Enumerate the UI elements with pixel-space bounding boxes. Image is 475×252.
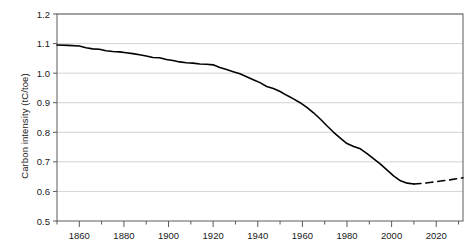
y-axis-tick-label: 1.1 xyxy=(37,38,50,49)
x-axis-tick-label: 1940 xyxy=(247,230,268,241)
y-axis-tick-label: 0.6 xyxy=(37,186,50,197)
x-axis-tick-label: 1900 xyxy=(158,230,179,241)
x-axis-tick-label: 1980 xyxy=(336,230,357,241)
y-axis-tick-label: 1.0 xyxy=(37,68,50,79)
x-axis-tick-label: 1920 xyxy=(203,230,224,241)
y-axis-tick-label: 0.9 xyxy=(37,97,50,108)
x-axis-tick-label: 1880 xyxy=(113,230,134,241)
y-axis-tick-label: 0.7 xyxy=(37,156,50,167)
carbon-intensity-chart: Carbon intensity (tC/toe) 0.50.60.70.80.… xyxy=(0,0,475,252)
chart-plot-area: 0.50.60.70.80.91.01.11.21860188019001920… xyxy=(0,0,475,252)
y-axis-tick-label: 0.8 xyxy=(37,127,50,138)
x-axis-tick-label: 2000 xyxy=(381,230,402,241)
plot-background xyxy=(57,14,463,221)
x-axis-tick-label: 2020 xyxy=(426,230,447,241)
y-axis-tick-label: 0.5 xyxy=(37,216,50,227)
x-axis-tick-label: 1860 xyxy=(69,230,90,241)
y-axis-tick-label: 1.2 xyxy=(37,9,50,20)
x-axis-tick-label: 1960 xyxy=(292,230,313,241)
